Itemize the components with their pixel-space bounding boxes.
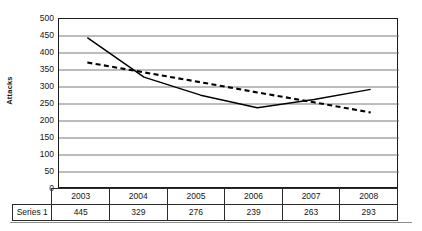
y-axis-title: Attacks: [5, 56, 14, 126]
series-lines: [87, 38, 370, 113]
y-axis-tick-label: 200: [18, 116, 54, 125]
gridlines: [59, 36, 399, 172]
table-value-cell: 263: [282, 205, 340, 221]
table-header-cell: 2007: [282, 189, 340, 205]
table-row: Series 1 445329276239263293: [13, 205, 398, 221]
table-value-cell: 445: [52, 205, 110, 221]
table-value-cell: 293: [340, 205, 398, 221]
y-axis-tick-label: 150: [18, 133, 54, 142]
attacks-series: [87, 38, 370, 108]
y-axis-tick-label: 400: [18, 48, 54, 57]
table-header-cell: 2003: [52, 189, 110, 205]
y-axis-tick-label: 500: [18, 14, 54, 23]
plot-svg: [59, 19, 399, 189]
y-axis-tick-label: 250: [18, 99, 54, 108]
plot-area: [58, 18, 398, 188]
y-axis-tick-label: 450: [18, 31, 54, 40]
y-axis-tick-label: 100: [18, 150, 54, 159]
table-series-label: Series 1: [13, 205, 52, 221]
chart-figure: Attacks 500450400350300250200150100500 2…: [0, 0, 422, 231]
y-axis-tick-label: 350: [18, 65, 54, 74]
y-axis-tick-label: 50: [18, 167, 54, 176]
table-header-cell: 2008: [340, 189, 398, 205]
table-header-cell: 2005: [167, 189, 225, 205]
table-header-cell: 2006: [225, 189, 283, 205]
table-value-cell: 276: [167, 205, 225, 221]
table-value-cell: 329: [110, 205, 168, 221]
table-value-cell: 239: [225, 205, 283, 221]
table-header-cell: 2004: [110, 189, 168, 205]
page-separator-rule: [10, 222, 412, 223]
data-table: 200320042005200620072008 Series 1 445329…: [12, 188, 398, 221]
table-header-row: 200320042005200620072008: [13, 189, 398, 205]
y-axis-tick-label: 300: [18, 82, 54, 91]
table-corner-cell: [13, 189, 52, 205]
